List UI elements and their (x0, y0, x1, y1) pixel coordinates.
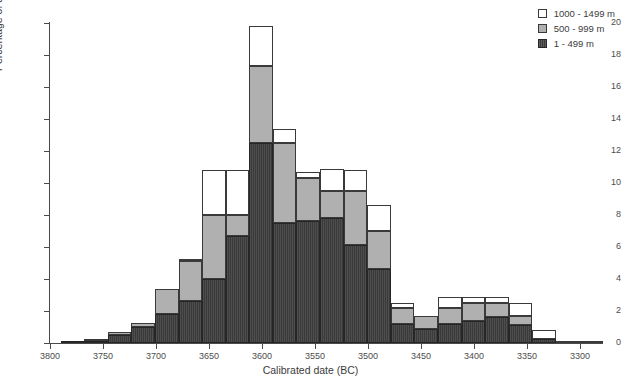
bar-segment-s2 (579, 341, 603, 343)
x-tick-label: 3600 (232, 351, 292, 361)
histogram-bar (579, 23, 603, 343)
histogram-bar (155, 23, 179, 343)
bar-segment-s2 (532, 330, 556, 339)
histogram-bar (202, 23, 226, 343)
y-tick-mark (44, 247, 49, 248)
bar-segment-s0 (61, 341, 85, 343)
x-tick-mark (262, 344, 263, 349)
legend-item-label: 1000 - 1499 m (554, 9, 615, 19)
x-tick-mark (421, 344, 422, 349)
legend-item[interactable]: 1 - 499 m (538, 36, 615, 51)
legend-item[interactable]: 500 - 999 m (538, 21, 615, 36)
bar-segment-s2 (344, 170, 368, 191)
legend-item-label: 1 - 499 m (554, 39, 594, 49)
y-tick-mark (44, 183, 49, 184)
bar-segment-s0 (108, 335, 132, 343)
y-tick-mark (44, 151, 49, 152)
bar-segment-s1 (320, 191, 344, 218)
x-tick-mark (156, 344, 157, 349)
y-tick-mark (44, 23, 49, 24)
histogram-bar (249, 23, 273, 343)
bar-segment-s1 (179, 261, 203, 301)
bar-segment-s2 (462, 297, 486, 303)
x-tick-label: 3800 (20, 351, 80, 361)
bar-segment-s1 (226, 215, 250, 236)
bar-segment-s1 (155, 289, 179, 315)
bar-segment-s0 (532, 339, 556, 343)
histogram-bar (344, 23, 368, 343)
x-tick-label: 3500 (338, 351, 398, 361)
x-tick-mark (368, 344, 369, 349)
bar-segment-s0 (509, 325, 533, 343)
bar-segment-s2 (296, 172, 320, 178)
bar-segment-s0 (202, 279, 226, 343)
histogram-bar (509, 23, 533, 343)
bar-segment-s0 (273, 223, 297, 343)
x-tick-label: 3400 (444, 351, 504, 361)
histogram-bar (131, 23, 155, 343)
y-tick-mark (44, 119, 49, 120)
bar-segment-s1 (273, 143, 297, 223)
chart-legend: 1000 - 1499 m500 - 999 m1 - 499 m (538, 6, 615, 51)
bar-segment-s0 (84, 341, 108, 343)
bar-segment-s1 (509, 316, 533, 326)
bar-segment-s2 (179, 259, 203, 261)
bar-segment-s2 (249, 26, 273, 66)
legend-swatch-icon (538, 24, 547, 33)
bar-segment-s1 (84, 339, 108, 341)
bar-segment-s0 (226, 236, 250, 343)
histogram-bar (414, 23, 438, 343)
histogram-bar (391, 23, 415, 343)
bar-segment-s0 (179, 301, 203, 343)
bar-segment-s1 (367, 231, 391, 269)
histogram-bar (320, 23, 344, 343)
bar-segment-s1 (391, 308, 415, 324)
bar-segment-s0 (485, 317, 509, 343)
bar-segment-s0 (367, 269, 391, 343)
x-tick-mark (103, 344, 104, 349)
bar-segment-s2 (226, 170, 250, 215)
x-tick-label: 3300 (550, 351, 610, 361)
bar-segment-s1 (414, 316, 438, 329)
bar-segment-s1 (344, 191, 368, 245)
bar-segment-s1 (108, 332, 132, 335)
legend-swatch-icon (538, 9, 547, 18)
bar-segment-s2 (438, 297, 462, 308)
bar-segment-s0 (249, 143, 273, 343)
histogram-bar (556, 23, 580, 343)
bar-segment-s0 (438, 324, 462, 343)
x-tick-mark (315, 344, 316, 349)
x-tick-mark (580, 344, 581, 349)
x-tick-label: 3350 (497, 351, 557, 361)
bar-segment-s1 (438, 308, 462, 324)
bar-segment-s1 (131, 323, 155, 327)
histogram-bar (273, 23, 297, 343)
histogram-bar (367, 23, 391, 343)
plot-area (50, 23, 602, 343)
bar-segment-s1 (249, 66, 273, 143)
histogram-bar (485, 23, 509, 343)
x-tick-mark (209, 344, 210, 349)
legend-item-label: 500 - 999 m (554, 24, 605, 34)
bar-segment-s2 (273, 129, 297, 143)
x-tick-mark (474, 344, 475, 349)
bar-segment-s2 (485, 297, 509, 303)
x-tick-mark (527, 344, 528, 349)
bar-segment-s0 (462, 321, 486, 343)
legend-item[interactable]: 1000 - 1499 m (538, 6, 615, 21)
x-tick-label: 3650 (179, 351, 239, 361)
x-tick-label: 3550 (285, 351, 345, 361)
legend-swatch-icon (538, 39, 547, 48)
x-tick-label: 3700 (126, 351, 186, 361)
bar-segment-s1 (296, 178, 320, 221)
histogram-bar (179, 23, 203, 343)
histogram-bar (84, 23, 108, 343)
histogram-bar (108, 23, 132, 343)
y-tick-mark (44, 343, 49, 344)
x-tick-mark (50, 344, 51, 349)
x-axis-line (49, 343, 603, 344)
bar-segment-s2 (391, 303, 415, 308)
bar-segment-s2 (320, 169, 344, 191)
bar-segment-s2 (202, 170, 226, 215)
x-tick-label: 3450 (391, 351, 451, 361)
